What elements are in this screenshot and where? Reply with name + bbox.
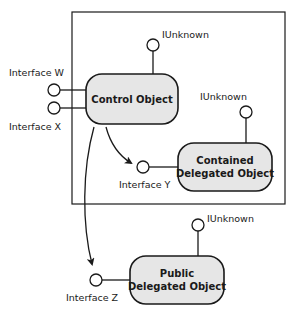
arrow-control-to-interface-y — [106, 127, 131, 163]
interface-x-lollipop: Interface X — [9, 102, 87, 132]
interface-y-lollipop: Interface Y — [119, 161, 178, 190]
contained-iunknown-circle — [240, 106, 252, 118]
public-object-label-line1: Public — [160, 268, 194, 279]
public-object-label-line2: Delegated Object — [128, 281, 226, 292]
control-object-label: Control Object — [91, 94, 173, 105]
contained-object-label-line2: Delegated Object — [176, 168, 274, 179]
contained-delegated-object: Contained Delegated Object — [176, 143, 274, 191]
public-iunknown-label: IUnknown — [207, 213, 254, 224]
public-delegated-object: Public Delegated Object — [128, 256, 226, 304]
interface-w-circle — [48, 84, 60, 96]
interface-z-circle — [90, 274, 102, 286]
control-object: Control Object — [86, 74, 178, 124]
arrow-control-to-interface-z — [85, 127, 94, 264]
control-iunknown-lollipop: IUnknown — [147, 29, 209, 74]
interface-z-label: Interface Z — [66, 292, 119, 303]
aggregation-diagram: IUnknown Interface W Interface X Control… — [0, 0, 295, 310]
contained-iunknown-lollipop: IUnknown — [200, 91, 252, 143]
public-iunknown-circle — [192, 219, 204, 231]
contained-object-label-line1: Contained — [196, 155, 253, 166]
control-iunknown-label: IUnknown — [162, 29, 209, 40]
interface-x-circle — [48, 102, 60, 114]
interface-z-lollipop: Interface Z — [66, 274, 130, 303]
interface-x-label: Interface X — [9, 121, 62, 132]
public-iunknown-lollipop: IUnknown — [192, 213, 254, 256]
contained-iunknown-label: IUnknown — [200, 91, 247, 102]
control-iunknown-circle — [147, 39, 159, 51]
interface-y-label: Interface Y — [119, 179, 171, 190]
interface-w-label: Interface W — [9, 67, 65, 78]
interface-y-circle — [137, 161, 149, 173]
interface-w-lollipop: Interface W — [9, 67, 87, 96]
